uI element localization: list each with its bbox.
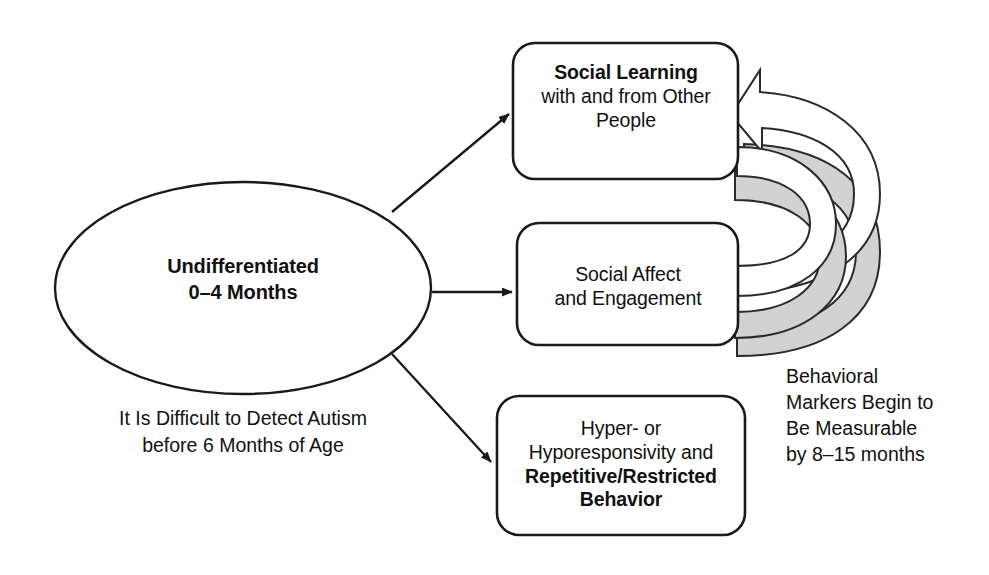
origin-label-line-1: Undifferentiated — [55, 253, 431, 279]
connector-to-social-learning — [392, 114, 509, 212]
caption-right-line-4: by 8–15 months — [786, 441, 986, 467]
origin-label-line-2: 0–4 Months — [55, 279, 431, 305]
box-social-affect-label: Social Affect and Engagement — [517, 263, 739, 311]
caption-right-line-3: Be Measurable — [786, 415, 986, 441]
caption-right-line-1: Behavioral — [786, 363, 986, 389]
box-repetitive-behavior-label: Hyper- or Hyporesponsivity and Repetitiv… — [497, 417, 745, 512]
caption-behavioral-markers: Behavioral Markers Begin to Be Measurabl… — [786, 363, 986, 468]
repetitive-line-2: Hyporesponsivity and — [497, 441, 745, 465]
caption-right-line-2: Markers Begin to — [786, 389, 986, 415]
social-affect-line-2: and Engagement — [517, 287, 739, 311]
repetitive-line-1: Hyper- or — [497, 417, 745, 441]
origin-ellipse-label: Undifferentiated 0–4 Months — [55, 253, 431, 305]
repetitive-line-3: Repetitive/Restricted — [497, 465, 745, 489]
caption-left-line-1: It Is Difficult to Detect Autism — [38, 405, 448, 432]
social-learning-line-2: with and from Other — [513, 85, 739, 109]
social-affect-line-1: Social Affect — [517, 263, 739, 287]
social-learning-line-3: People — [513, 109, 739, 133]
repetitive-line-4: Behavior — [497, 488, 745, 512]
box-social-learning-label: Social Learning with and from Other Peop… — [513, 61, 739, 132]
caption-left-line-2: before 6 Months of Age — [38, 432, 448, 459]
caption-difficult-to-detect: It Is Difficult to Detect Autism before … — [38, 405, 448, 458]
diagram-canvas: Undifferentiated 0–4 Months Social Learn… — [0, 0, 989, 575]
social-learning-line-1: Social Learning — [513, 61, 739, 85]
